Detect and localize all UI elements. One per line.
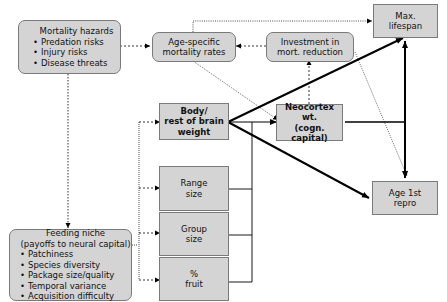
node-title: Group size [181,224,207,245]
list-item: Package size/quality [20,270,114,281]
list-item: Temporal variance [20,281,114,292]
node-title: Investment in mort. reduction [277,37,343,58]
node-group-size: Group size [159,212,229,256]
node-title: % fruit [185,269,203,290]
node-title: Range size [181,178,208,199]
list-item: Injury risks [33,47,107,58]
node-feeding-niche: Feeding niche (payoffs to neural capital… [9,229,132,301]
node-age-first-repro: Age 1st repro [372,181,438,215]
bullet-list: Predation risks Injury risks Disease thr… [33,37,107,69]
list-item: Species diversity [20,260,114,271]
node-investment-mort-reduction: Investment in mort. reduction [266,32,354,62]
bullet-list: Patchiness Species diversity Package siz… [20,249,114,302]
node-range-size: Range size [159,166,229,211]
node-age-specific-mortality: Age-specific mortality rates [152,32,236,62]
list-item: Disease threats [33,58,107,69]
list-item: Acquisition difficulty [20,291,114,302]
node-title: Max. lifespan [389,11,422,32]
node-title: Body/ rest of brain weight [164,106,224,138]
list-item: Patchiness [20,249,114,260]
node-body-brain-weight: Body/ rest of brain weight [159,103,229,140]
list-item: Predation risks [33,37,107,48]
node-title: Neocortex wt. (cogn. capital) [277,102,342,144]
node-title: Age 1st repro [389,188,421,209]
node-mortality-hazards: Mortality hazards Predation risks Injury… [18,20,121,74]
node-title: Mortality hazards [40,26,114,37]
node-title: Feeding niche (payoffs to neural capital… [20,228,130,249]
node-title: Age-specific mortality rates [163,37,226,58]
node-pct-fruit: % fruit [159,257,229,301]
node-neocortex-weight: Neocortex wt. (cogn. capital) [276,104,343,141]
node-max-lifespan: Max. lifespan [373,4,438,38]
